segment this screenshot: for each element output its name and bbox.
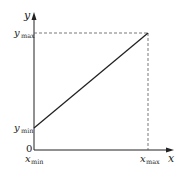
xmin-label: x min (25, 153, 43, 166)
chart: y x 0 y max y min x min x max (0, 0, 189, 173)
data-line (34, 33, 148, 128)
ymax-label: y max (13, 27, 35, 40)
svg-text:min: min (21, 127, 33, 135)
svg-text:max: max (21, 32, 35, 40)
ymin-label: y min (13, 122, 33, 135)
x-axis-label: x (168, 152, 175, 165)
svg-text:y: y (13, 27, 20, 38)
y-axis-label: y (23, 9, 31, 22)
svg-text:max: max (146, 158, 160, 166)
xmax-label: x max (140, 153, 160, 166)
svg-text:y: y (13, 122, 20, 133)
svg-text:min: min (31, 158, 43, 166)
y-axis-arrow-icon (32, 12, 37, 20)
